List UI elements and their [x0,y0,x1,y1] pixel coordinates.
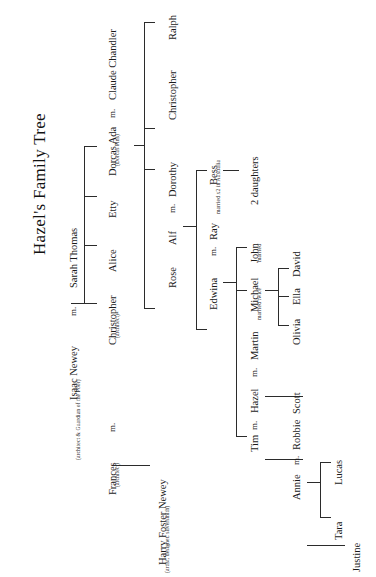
branch-to-dorcas [84,146,97,147]
person-alf: Alf [168,231,179,245]
person-rose: Rose [168,267,179,288]
branch-to-michael [236,290,247,291]
page-title: Hazel's Family Tree [31,113,48,255]
person-christopher-g3: Christopher [168,70,179,120]
descent-dorcas-to-children [134,145,145,146]
person-harry-foster-newey-note: (artist, designer, silversmith) [165,506,171,573]
sibling-bar-generation-7 [320,462,321,518]
marriage-connector-annie-robbie [307,482,321,483]
sibling-bar-michael-children [278,268,279,326]
person-robbie: Robbie [292,420,303,450]
sibling-bar-generation-3 [144,22,145,309]
person-christopher-g2-note: (architect) [115,314,121,338]
marriage-connector-edwina-ray [223,282,237,283]
person-tara: Tara [334,522,345,541]
person-tim: Tim [250,435,261,452]
branch-to-rose [144,308,155,309]
descent-michael-to-children [265,290,279,291]
marriage-marker-annie-robbie: m. [292,456,301,465]
person-frances-note: (architect) [115,463,121,487]
person-dorcas-ada-note: (Dorcas Pins) [115,134,121,166]
person-ray: Ray [209,223,220,240]
marriage-marker-isaac-sarah: m. [69,307,78,316]
person-claude-chandler: Claude Chandler [108,29,119,100]
person-edwina: Edwina [209,278,220,310]
branch-to-alice [84,245,97,246]
person-isaac-newey-note: (architect & Guardian of the Poor) [76,379,82,460]
person-annie: Annie [292,474,303,500]
marriage-marker-frances-christopher: m. [108,423,117,432]
branch-to-etty [84,196,97,197]
branch-to-bess [196,170,207,171]
person-scott: Scott [292,392,303,414]
person-ralph: Ralph [168,15,179,40]
person-2-daughters: 2 daughters [250,156,261,205]
marriage-connector-frances-christopher [112,465,150,466]
marriage-marker-edwina-ray: m. [209,247,218,256]
person-john-note: married [257,244,263,262]
marriage-marker-hazel-martin: m. [250,368,259,377]
person-justine: Justine [352,543,363,572]
person-etty: Etty [108,201,119,219]
sibling-bar-generation-5 [236,247,237,437]
branch-to-ralph [144,22,155,23]
marriage-connector-isaac-sarah [71,303,85,304]
branch-to-christopher-g2 [84,303,97,304]
person-martin: Martin [250,331,261,360]
descent-bess-to-daughters [223,170,239,171]
branch-to-tara [320,517,331,518]
marriage-marker-dorcas-claude: m. [108,109,117,118]
descent-to-justine [307,545,345,546]
person-dorothy: Dorothy [168,162,179,197]
person-sarah-thomas: Sarah Thomas [69,228,80,288]
person-david: David [292,251,303,277]
branch-to-olivia [278,325,289,326]
person-lucas: Lucas [334,460,345,485]
person-michael-note: married twice [257,288,263,320]
branch-to-edwina [196,329,207,330]
marriage-connector-alf-dorothy [183,226,197,227]
branch-to-lucas [320,462,331,463]
branch-to-alf [144,169,155,170]
marriage-marker-tim: m. [250,421,259,430]
branch-to-ella [278,296,289,297]
marriage-marker-alf-dorothy: m. [168,204,177,213]
person-alice: Alice [108,249,119,272]
person-bess-note: married x2 in Australia [216,160,222,214]
branch-to-tim-hazel [236,436,247,437]
branch-to-david [278,268,289,269]
person-ella: Ella [292,288,303,305]
person-hazel: Hazel [250,389,261,413]
branch-to-john [236,247,247,248]
branch-to-christopher-g3 [144,128,155,129]
person-olivia: Olivia [292,319,303,345]
family-tree-page: Hazel's Family Tree Isaac Newey (archite… [0,0,376,577]
sibling-bar-generation-4 [196,170,197,330]
sibling-bar-generation-2 [84,146,85,304]
